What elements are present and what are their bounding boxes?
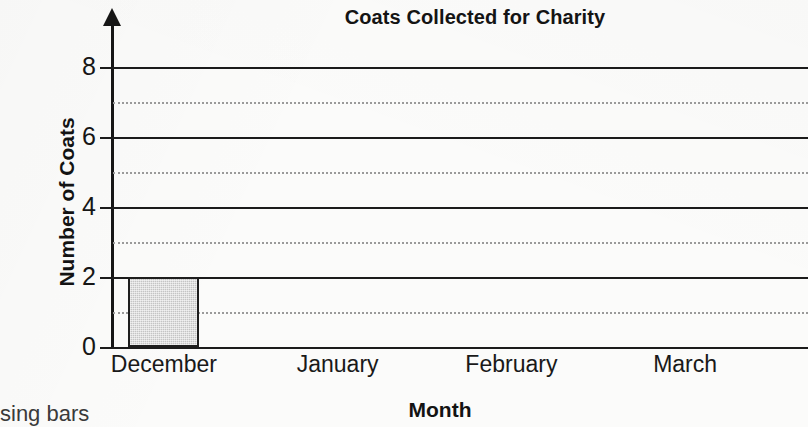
bar-december bbox=[128, 277, 199, 347]
chart-title: Coats Collected for Charity bbox=[250, 6, 700, 29]
y-axis-tick-0 bbox=[100, 347, 113, 349]
x-axis-label-january: January bbox=[297, 353, 379, 376]
x-axis-label-march: March bbox=[653, 353, 717, 376]
gridline-2 bbox=[113, 277, 808, 279]
gridline-4 bbox=[113, 207, 808, 209]
y-axis-tick-2 bbox=[100, 277, 113, 279]
y-axis-tick-label-6: 6 bbox=[60, 124, 96, 149]
x-axis-title: Month bbox=[370, 398, 510, 422]
gridline-8 bbox=[113, 67, 808, 69]
gridline-7 bbox=[113, 102, 808, 104]
y-axis-tick-label-8: 8 bbox=[60, 54, 96, 79]
gridline-6 bbox=[113, 137, 808, 139]
y-axis-tick-label-0: 0 bbox=[60, 334, 96, 359]
y-axis-tick-6 bbox=[100, 137, 113, 139]
y-axis-tick-label-2: 2 bbox=[60, 264, 96, 289]
y-axis-tick-8 bbox=[100, 67, 113, 69]
gridline-5 bbox=[113, 172, 808, 174]
x-axis-label-february: February bbox=[465, 353, 557, 376]
gridline-0 bbox=[113, 347, 808, 349]
y-axis-tick-labels: 02468 bbox=[52, 0, 96, 427]
y-axis-tick-label-4: 4 bbox=[60, 194, 96, 219]
gridline-3 bbox=[113, 242, 808, 244]
plot-area bbox=[113, 67, 808, 347]
y-axis-tick-4 bbox=[100, 207, 113, 209]
x-axis-label-december: December bbox=[111, 353, 217, 376]
worksheet-text-fragment: sing bars bbox=[0, 401, 89, 427]
bar-chart-figure: Coats Collected for Charity Number of Co… bbox=[0, 0, 808, 427]
gridline-1 bbox=[113, 312, 808, 314]
